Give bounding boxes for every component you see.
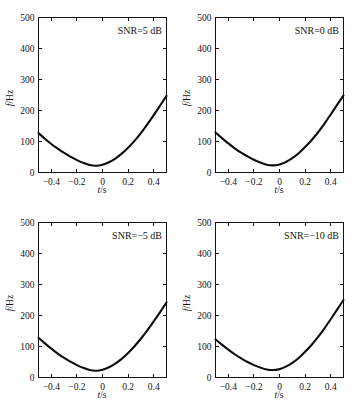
x-tick-label: 0.2 — [299, 177, 311, 187]
x-tick-label: 0.4 — [325, 382, 337, 392]
y-tick-labels: 0100200300400500 — [20, 218, 35, 383]
y-tick-label: 200 — [20, 106, 35, 116]
panel-snr-0db: 0100200300400500 −0.4−0.200.20.4 SNR=0 d… — [177, 0, 354, 205]
x-tick-label: −0.4 — [43, 382, 60, 392]
y-tick-label: 500 — [197, 218, 212, 228]
y-tick-label: 500 — [20, 13, 35, 23]
y-tick-label: 0 — [207, 168, 212, 178]
annotation-snr: SNR=−10 dB — [284, 230, 339, 241]
y-tick-label: 100 — [20, 137, 35, 147]
panel-snr-5db: 0100200300400500 −0.4−0.200.20.4 SNR=5 d… — [0, 0, 177, 205]
y-tick-label: 500 — [197, 13, 212, 23]
y-tick-label: 200 — [197, 311, 212, 321]
y-tick-label: 200 — [197, 106, 212, 116]
x-axis-title: t/s — [275, 185, 284, 195]
y-tick-label: 300 — [197, 280, 212, 290]
y-tick-label: 400 — [197, 249, 212, 259]
data-curve — [216, 300, 344, 370]
x-tick-label: 0.4 — [325, 177, 337, 187]
y-axis-title: f/Hz — [5, 90, 15, 106]
x-tick-label: 0.2 — [122, 382, 134, 392]
y-tick-label: 400 — [20, 249, 35, 259]
data-curve — [39, 302, 167, 370]
y-tick-label: 0 — [30, 168, 35, 178]
panel-snr-minus5db: 0100200300400500 −0.4−0.200.20.4 SNR=−5 … — [0, 205, 177, 410]
y-axis-title-rest: /Hz — [182, 295, 192, 309]
x-axis-ticks — [51, 223, 153, 378]
y-axis-title-rest: /Hz — [182, 90, 192, 104]
y-tick-label: 200 — [20, 311, 35, 321]
y-tick-label: 0 — [207, 373, 212, 383]
y-tick-label: 300 — [20, 75, 35, 85]
x-tick-label: −0.4 — [220, 177, 237, 187]
y-axis-title: f/Hz — [182, 90, 192, 106]
y-tick-label: 100 — [20, 342, 35, 352]
y-tick-labels: 0100200300400500 — [20, 13, 35, 178]
x-axis-title-rest: /s — [277, 185, 284, 195]
annotation-snr: SNR=0 dB — [295, 25, 340, 36]
x-tick-label: −0.2 — [68, 177, 85, 187]
annotation-snr: SNR=−5 dB — [112, 230, 162, 241]
figure-four-panel-chirp-plots: 0100200300400500 −0.4−0.200.20.4 SNR=5 d… — [0, 0, 354, 411]
y-tick-label: 500 — [20, 218, 35, 228]
panel-svg-snr-minus10db: 0100200300400500 −0.4−0.200.20.4 SNR=−10… — [177, 205, 354, 410]
x-axis-title: t/s — [98, 390, 107, 400]
y-tick-label: 400 — [20, 44, 35, 54]
panel-svg-snr-5db: 0100200300400500 −0.4−0.200.20.4 SNR=5 d… — [0, 0, 177, 205]
x-tick-label: −0.2 — [245, 382, 262, 392]
x-axis-ticks — [228, 223, 330, 378]
x-axis-ticks — [51, 18, 153, 173]
y-tick-label: 300 — [20, 280, 35, 290]
x-tick-label: 0.4 — [148, 382, 160, 392]
y-tick-label: 400 — [197, 44, 212, 54]
y-axis-title: f/Hz — [182, 295, 192, 311]
y-axis-title-rest: /Hz — [5, 295, 15, 309]
panel-svg-snr-0db: 0100200300400500 −0.4−0.200.20.4 SNR=0 d… — [177, 0, 354, 205]
x-axis-title: t/s — [98, 185, 107, 195]
x-tick-label: −0.4 — [43, 177, 60, 187]
x-axis-title-rest: /s — [100, 185, 107, 195]
x-tick-label: −0.4 — [220, 382, 237, 392]
data-curve — [39, 96, 167, 166]
panel-snr-minus10db: 0100200300400500 −0.4−0.200.20.4 SNR=−10… — [177, 205, 354, 410]
x-axis-title-rest: /s — [100, 390, 107, 400]
x-axis-title: t/s — [275, 390, 284, 400]
x-tick-label: −0.2 — [68, 382, 85, 392]
y-axis-title: f/Hz — [5, 295, 15, 311]
y-tick-labels: 0100200300400500 — [197, 13, 212, 178]
x-tick-label: −0.2 — [245, 177, 262, 187]
data-curve — [216, 95, 344, 165]
annotation-snr: SNR=5 dB — [118, 25, 163, 36]
x-tick-label: 0.2 — [299, 382, 311, 392]
y-tick-label: 300 — [197, 75, 212, 85]
y-tick-label: 100 — [197, 137, 212, 147]
x-tick-label: 0.2 — [122, 177, 134, 187]
y-tick-label: 0 — [30, 373, 35, 383]
y-tick-labels: 0100200300400500 — [197, 218, 212, 383]
x-axis-ticks — [228, 18, 330, 173]
x-tick-label: 0.4 — [148, 177, 160, 187]
y-axis-title-rest: /Hz — [5, 90, 15, 104]
y-tick-label: 100 — [197, 342, 212, 352]
x-axis-title-rest: /s — [277, 390, 284, 400]
panel-svg-snr-minus5db: 0100200300400500 −0.4−0.200.20.4 SNR=−5 … — [0, 205, 177, 410]
